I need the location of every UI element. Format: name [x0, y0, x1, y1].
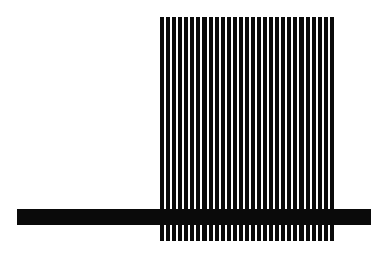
- stripe: [184, 17, 188, 241]
- stripe: [202, 17, 206, 241]
- stripe: [263, 17, 267, 241]
- stripe: [209, 17, 213, 241]
- stripe: [275, 17, 279, 241]
- stripe: [281, 17, 285, 241]
- stripe: [287, 17, 291, 241]
- horizontal-bar: [17, 209, 371, 225]
- stripe: [172, 17, 176, 241]
- stripe: [269, 17, 273, 241]
- stripe: [160, 17, 164, 241]
- stripe: [239, 17, 243, 241]
- stripe: [257, 17, 261, 241]
- stripe: [330, 17, 334, 241]
- vertical-stripe-block: [160, 17, 334, 241]
- stripe: [293, 17, 297, 241]
- stripe: [178, 17, 182, 241]
- stripe: [324, 17, 328, 241]
- stripe: [196, 17, 200, 241]
- stripe: [251, 17, 255, 241]
- stripe: [312, 17, 316, 241]
- stripe: [221, 17, 225, 241]
- stripe: [233, 17, 237, 241]
- stripe: [190, 17, 194, 241]
- stripe: [299, 17, 303, 241]
- stripe: [245, 17, 249, 241]
- stripe: [227, 17, 231, 241]
- stripe: [166, 17, 170, 241]
- stripe: [306, 17, 310, 241]
- stripe: [318, 17, 322, 241]
- stripe: [215, 17, 219, 241]
